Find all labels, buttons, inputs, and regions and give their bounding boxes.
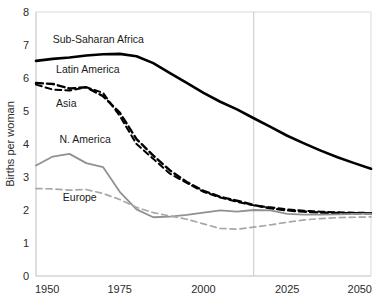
y-axis-tick-label: 4 — [23, 138, 29, 150]
y-axis-tick-label: 7 — [23, 39, 29, 51]
x-axis-tick-label: 1950 — [35, 283, 59, 295]
series-line-n-america — [36, 154, 371, 217]
series-label-latin-america: Latin America — [56, 63, 120, 75]
series-label-n-america: N. America — [59, 133, 111, 145]
y-axis-tick-label: 1 — [23, 237, 29, 249]
y-axis-tick-label: 2 — [23, 204, 29, 216]
x-axis-tick-label: 2000 — [191, 283, 215, 295]
series-label-asia: Asia — [56, 97, 77, 109]
x-axis-tick-label: 2025 — [275, 283, 299, 295]
x-axis-tick-label: 2050 — [348, 283, 372, 295]
y-axis-tick-label: 8 — [23, 6, 29, 18]
y-axis-tick-label: 0 — [23, 270, 29, 282]
y-axis-title: Births per woman — [4, 101, 16, 187]
chart-canvas: 01234567819501975200020252050Births per … — [0, 0, 383, 299]
x-axis-tick-label: 1975 — [108, 283, 132, 295]
y-axis-tick-label: 3 — [23, 171, 29, 183]
fertility-line-chart: 01234567819501975200020252050Births per … — [0, 0, 383, 299]
series-label-europe: Europe — [63, 191, 97, 203]
series-label-sub-saharan-africa: Sub-Saharan Africa — [53, 33, 144, 45]
y-axis-tick-label: 6 — [23, 72, 29, 84]
y-axis-tick-label: 5 — [23, 105, 29, 117]
